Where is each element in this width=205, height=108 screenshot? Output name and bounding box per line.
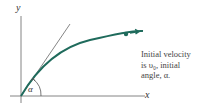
caption-line-2: is υ₀, initial — [141, 60, 191, 71]
y-axis-label: y — [16, 2, 20, 13]
caption-line-3: angle, α. — [141, 70, 191, 81]
caption: Initial velocity is υ₀, initial angle, α… — [141, 49, 191, 81]
x-axis-label: x — [145, 89, 149, 100]
angle-label: α — [28, 84, 33, 94]
caption-line-1: Initial velocity — [141, 49, 191, 60]
projectile-diagram: y x α Initial velocity is υ₀, initial an… — [0, 0, 205, 108]
projectile-point — [124, 32, 128, 36]
angle-arc — [33, 79, 41, 96]
